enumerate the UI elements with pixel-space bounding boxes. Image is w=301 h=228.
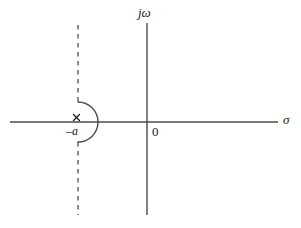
real-axis-label: σ <box>283 112 289 128</box>
s-plane-contour-figure: jω σ 0 –a <box>0 0 301 228</box>
complex-plane-diagram <box>0 0 301 228</box>
pole-marker-icon <box>74 115 80 121</box>
pole-label: –a <box>66 124 78 139</box>
origin-label: 0 <box>152 124 159 140</box>
imaginary-axis-label: jω <box>138 5 151 21</box>
